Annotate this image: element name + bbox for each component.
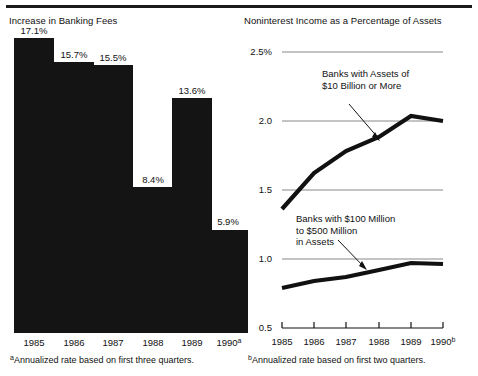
annotation-line: Banks with $100 Million <box>296 213 395 225</box>
y-tick-label: 0.5 <box>238 322 272 333</box>
footnote-text: Annualized rate based on first three qua… <box>14 355 194 365</box>
x-tick-label: 1990b <box>422 336 464 347</box>
table-row <box>14 38 54 333</box>
line-chart-plot-area <box>236 0 478 376</box>
y-tick-label: 2.5% <box>238 46 272 57</box>
x-axis <box>282 322 443 328</box>
annotation-label-mid-banks: Banks with $100 Million to $500 Million … <box>296 213 395 248</box>
line-chart-panel: Noninterest Income as a Percentage of As… <box>236 0 478 376</box>
annotation-arrow-large-banks <box>349 104 380 141</box>
footnote-marker-b: b <box>452 336 456 343</box>
series-line-large-banks <box>282 116 443 209</box>
y-tick-label: 2.0 <box>238 115 272 126</box>
table-row <box>133 187 173 333</box>
bar-value-label: 17.1% <box>11 25 57 36</box>
y-tick-label: 1.0 <box>238 253 272 264</box>
bar-chart-footnote: aAnnualized rate based on first three qu… <box>10 355 194 365</box>
bar-value-label: 13.6% <box>169 85 215 96</box>
table-row <box>93 65 133 333</box>
table-row <box>54 62 94 333</box>
annotation-line: $10 Billion or More <box>322 80 409 92</box>
figure-root: Increase in Banking Fees 17.1% 1985 15.7… <box>0 0 478 376</box>
bar-category-text: 1990 <box>216 337 237 348</box>
annotation-line: to $500 Million <box>296 225 395 237</box>
footnote-marker-b: b <box>248 354 252 361</box>
line-chart-footnote: bAnnualized rate based on first two quar… <box>248 355 426 365</box>
bar-chart-plot-area: 17.1% 1985 15.7% 1986 15.5% 1987 8.4% 19… <box>0 0 236 333</box>
annotation-line: in Assets <box>296 236 395 248</box>
y-tick-label: 1.5 <box>238 184 272 195</box>
x-tick-text: 1990 <box>430 336 451 347</box>
annotation-label-large-banks: Banks with Assets of $10 Billion or More <box>322 68 409 91</box>
annotation-line: Banks with Assets of <box>322 68 409 80</box>
bar-value-label: 15.5% <box>90 52 136 63</box>
bar-chart-panel: Increase in Banking Fees 17.1% 1985 15.7… <box>0 0 236 376</box>
footnote-marker-a: a <box>10 354 14 361</box>
footnote-text: Annualized rate based on first two quart… <box>252 355 426 365</box>
bar-value-label: 8.4% <box>130 174 176 185</box>
